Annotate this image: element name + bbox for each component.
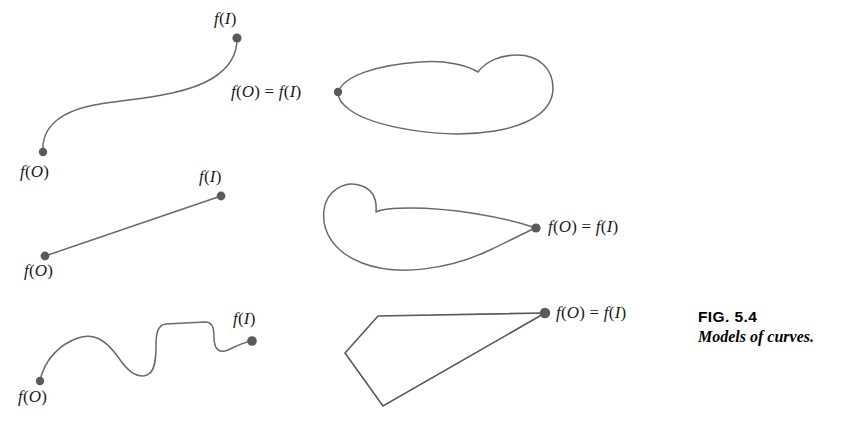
open-arc-end-dot (232, 33, 241, 42)
model-straight-segment (41, 192, 226, 261)
label-teardrop-closed: f(O) = f(I) (548, 218, 618, 235)
straight-segment-path (45, 196, 221, 256)
open-arc-path (43, 39, 237, 152)
figure-title: Models of curves. (698, 327, 858, 348)
model-closed-loop (334, 55, 553, 134)
quadrilateral-path (345, 313, 545, 406)
closed-loop-basepoint-dot (334, 88, 342, 96)
model-open-arc (39, 33, 242, 156)
quadrilateral-basepoint-dot (540, 308, 550, 318)
label-closed-loop: f(O) = f(I) (231, 83, 301, 100)
figure-number: FIG. 5.4 (698, 307, 858, 326)
label-segment-start: f(O) (24, 262, 53, 279)
label-segment-end: f(I) (199, 168, 222, 185)
closed-loop-path (338, 55, 553, 134)
figure-5-4: f(I) f(O) f(O) = f(I) f(I) f(O) f(O) = f… (0, 0, 861, 428)
label-polygon-closed: f(O) = f(I) (556, 304, 626, 321)
wavy-arc-path (40, 322, 252, 381)
label-arc-open-end: f(I) (214, 10, 237, 27)
segment-start-dot (41, 252, 50, 261)
figure-caption: FIG. 5.4 Models of curves. (698, 307, 858, 348)
wavy-end-dot (247, 336, 257, 346)
wavy-start-dot (36, 377, 44, 385)
model-wavy-arc (36, 322, 257, 385)
teardrop-loop-path (324, 184, 536, 270)
label-wavy-end: f(I) (233, 310, 256, 327)
open-arc-start-dot (39, 148, 47, 156)
model-quadrilateral (345, 308, 550, 406)
curve-models-canvas (0, 0, 861, 428)
model-teardrop-loop (324, 184, 541, 270)
segment-end-dot (217, 192, 226, 201)
teardrop-basepoint-dot (531, 223, 540, 232)
label-wavy-start: f(O) (18, 388, 47, 405)
label-arc-open-start: f(O) (20, 163, 49, 180)
